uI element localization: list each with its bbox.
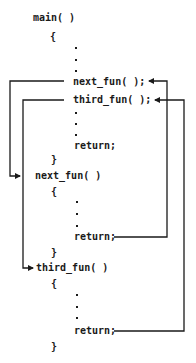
- third-fun-open-brace: {: [51, 278, 57, 290]
- main-call-third-fun: third_fun( );: [73, 94, 151, 106]
- arrow-call-third-fun: [23, 100, 64, 268]
- third-fun-header: third_fun( ): [36, 262, 108, 274]
- ellipsis-dot: [75, 112, 77, 114]
- main-header: main( ): [33, 12, 75, 24]
- next-fun-return: return;: [74, 231, 116, 243]
- next-fun-close-brace: }: [51, 247, 57, 259]
- ellipsis-dot: [75, 47, 77, 49]
- next-fun-header: next_fun( ): [35, 170, 101, 182]
- main-return: return;: [74, 140, 116, 152]
- ellipsis-dot: [75, 70, 77, 72]
- arrow-return-third-fun: [114, 100, 184, 331]
- next-fun-open-brace: {: [51, 186, 57, 198]
- ellipsis-dot: [76, 306, 78, 308]
- ellipsis-dot: [76, 225, 78, 227]
- ellipsis-dot: [76, 201, 78, 203]
- ellipsis-dot: [75, 59, 77, 61]
- ellipsis-dot: [76, 294, 78, 296]
- ellipsis-dot: [75, 134, 77, 136]
- ellipsis-dot: [76, 213, 78, 215]
- third-fun-return: return;: [74, 325, 116, 337]
- main-close-brace: }: [51, 154, 57, 166]
- third-fun-close-brace: }: [51, 341, 57, 353]
- ellipsis-dot: [75, 123, 77, 125]
- main-call-next-fun: next_fun( );: [73, 76, 145, 88]
- main-open-brace: {: [50, 31, 56, 43]
- ellipsis-dot: [76, 317, 78, 319]
